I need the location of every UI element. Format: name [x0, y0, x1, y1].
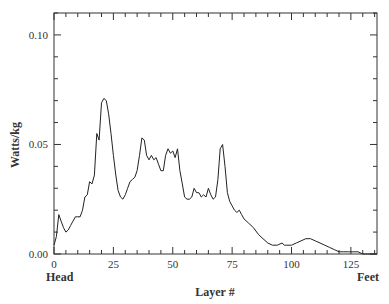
x-right-end-label: Feet [357, 270, 379, 284]
x-axis-label: Layer # [195, 285, 234, 299]
plot-frame: 02550751001250.000.050.10 [29, 13, 377, 270]
x-tick-label: 100 [283, 258, 300, 270]
y-tick-label: 0.00 [29, 248, 49, 260]
y-axis-label: Watts/kg [8, 122, 22, 168]
chart: 02550751001250.000.050.10 Watts/kg Layer… [0, 0, 389, 304]
plot-border [54, 13, 377, 254]
x-tick-label: 125 [343, 258, 360, 270]
y-tick-label: 0.10 [29, 29, 49, 41]
x-tick-label: 25 [108, 258, 120, 270]
y-tick-label: 0.05 [29, 138, 49, 150]
x-tick-label: 0 [51, 258, 57, 270]
data-line [54, 98, 377, 254]
x-tick-label: 50 [167, 258, 179, 270]
x-tick-label: 75 [227, 258, 239, 270]
x-left-end-label: Head [46, 270, 74, 284]
